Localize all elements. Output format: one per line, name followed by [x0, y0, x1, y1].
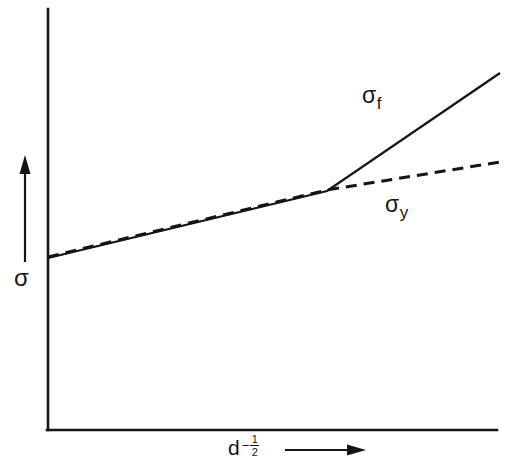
x-axis-title: d − 1 2 — [228, 437, 259, 458]
curve-label-sigma-y: σy — [385, 193, 408, 221]
exponent-numerator: 1 — [252, 434, 258, 444]
y-axis-title: σ — [14, 266, 29, 290]
curve-label-sigma-y-subscript: y — [400, 203, 409, 222]
curve-label-sigma-f: σf — [362, 84, 381, 112]
exponent-minus-sign: − — [242, 439, 250, 452]
exponent-fraction: 1 2 — [250, 434, 259, 457]
curve-label-sigma-y-base: σ — [385, 191, 399, 217]
curve-label-sigma-f-base: σ — [362, 82, 376, 108]
x-axis-title-base: d — [228, 437, 240, 458]
exponent-denominator: 2 — [252, 447, 258, 457]
axis-lines — [47, 9, 497, 430]
plot-area — [0, 0, 507, 472]
right-arrow-icon — [285, 445, 366, 456]
up-arrow-icon — [20, 155, 31, 262]
series-sigma-f-solid — [48, 73, 500, 258]
curve-label-sigma-f-subscript: f — [377, 94, 382, 113]
x-axis-title-exponent: − 1 2 — [242, 434, 260, 457]
figure-hall-petch-schematic: σf σy σ d − 1 2 — [0, 0, 507, 472]
